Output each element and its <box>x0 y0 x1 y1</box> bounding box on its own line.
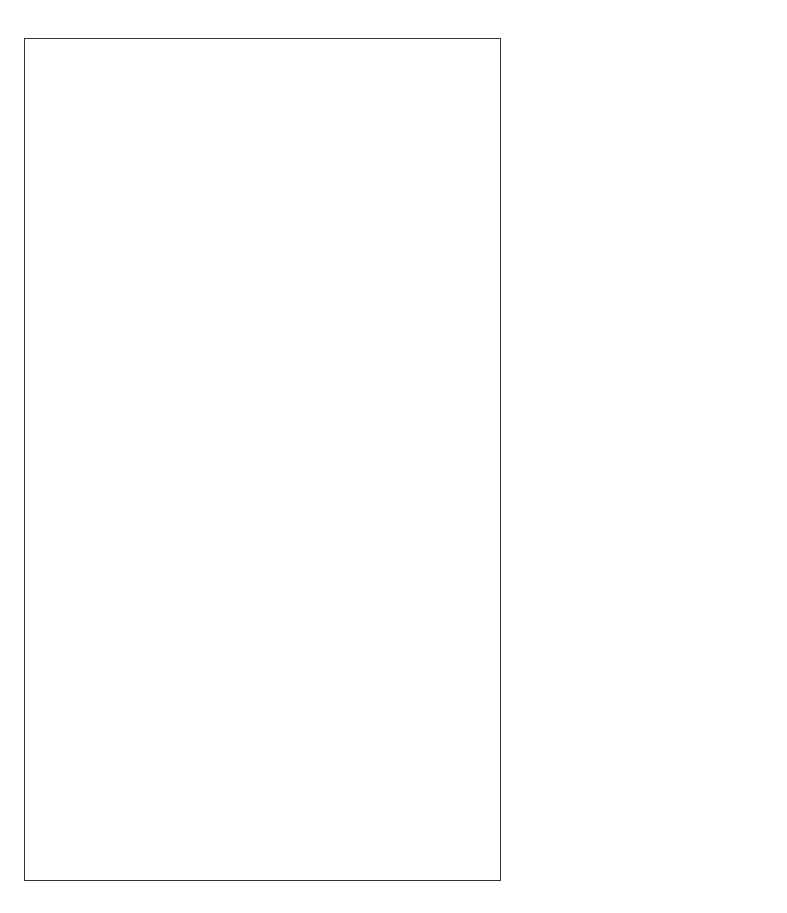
arrow-layer <box>0 0 787 913</box>
